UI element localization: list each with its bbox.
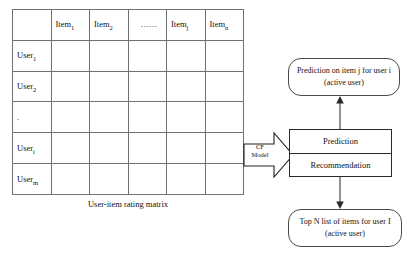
column-header-sub: 2: [110, 24, 113, 31]
row-header-ellipsis: .: [13, 102, 52, 133]
column-header-item-n: Itemn: [205, 10, 244, 41]
table-row-highlighted: Useri: [13, 133, 244, 164]
rating-cell-target: [167, 133, 206, 164]
rating-cell: [128, 71, 167, 102]
prediction-recommendation-box: Prediction Recommendation: [289, 129, 392, 177]
row-header-base: User: [17, 50, 33, 60]
row-header-user-m: Userm: [13, 164, 52, 195]
prediction-output-label: Prediction on item j for user i (active …: [295, 65, 393, 88]
rating-cell-item-j: [167, 102, 206, 133]
cf-model-arrow-shape: [243, 131, 295, 179]
rating-cell: [51, 164, 90, 195]
column-header-base: Item: [171, 19, 187, 29]
table-row: User1: [13, 40, 244, 71]
prediction-cell-label: Prediction: [323, 136, 358, 146]
rating-cell-item-j: [167, 164, 206, 195]
arrowhead-up-icon: [336, 96, 344, 104]
rating-cell: [51, 40, 90, 71]
row-header-sub: 1: [33, 55, 36, 62]
column-header-sub: j: [187, 24, 189, 31]
recommendation-cell-label: Recommendation: [311, 160, 371, 170]
recommendation-cell: Recommendation: [290, 154, 391, 177]
rating-cell: [128, 40, 167, 71]
rating-cell: [90, 40, 129, 71]
column-header-base: Item: [94, 19, 110, 29]
user-item-rating-matrix: Item1 Item2 ...... Itemj Itemn: [12, 9, 244, 195]
rating-cell-item-j: [167, 40, 206, 71]
column-header-ellipsis: ......: [128, 10, 167, 41]
row-header-base: User: [17, 174, 33, 184]
rating-cell: [128, 102, 167, 133]
recommender-system-diagram: Item1 Item2 ...... Itemj Itemn: [0, 0, 407, 267]
column-header-item-1: Item1: [51, 10, 90, 41]
rating-cell-item-j: [167, 71, 206, 102]
row-header-sub: i: [33, 147, 35, 154]
row-header-user-i: Useri: [13, 133, 52, 164]
rating-cell: [205, 40, 244, 71]
row-header-base: User: [17, 143, 33, 153]
column-header-base: Item: [210, 19, 226, 29]
rating-cell: [51, 102, 90, 133]
column-header-base: ......: [141, 19, 157, 29]
cf-model-block-arrow: CF Model: [243, 131, 295, 179]
rating-matrix-table: Item1 Item2 ...... Itemj Itemn: [12, 9, 244, 195]
column-header-base: Item: [56, 19, 72, 29]
row-header-user-1: User1: [13, 40, 52, 71]
row-header-base: User: [17, 81, 33, 91]
rating-cell: [90, 164, 129, 195]
rating-cell-highlighted: [128, 133, 167, 164]
rating-cell-highlighted: [90, 133, 129, 164]
column-header-sub: 1: [71, 24, 74, 31]
row-header-base: .: [17, 112, 19, 122]
rating-cell-highlighted: [205, 133, 244, 164]
table-row: Userm: [13, 164, 244, 195]
rating-cell: [205, 102, 244, 133]
rating-cell: [90, 71, 129, 102]
matrix-caption: User-item rating matrix: [12, 199, 244, 209]
matrix-corner-cell: [13, 10, 52, 41]
prediction-output-box: Prediction on item j for user i (active …: [288, 58, 400, 96]
prediction-cell: Prediction: [290, 130, 391, 154]
rating-cell: [128, 164, 167, 195]
table-row: .: [13, 102, 244, 133]
row-header-sub: 2: [33, 86, 36, 93]
rating-cell-highlighted: [51, 133, 90, 164]
table-header-row: Item1 Item2 ...... Itemj Itemn: [13, 10, 244, 41]
arrowhead-down-icon: [336, 202, 344, 210]
top-n-list-label: Top N list of items for user I (active u…: [295, 216, 395, 239]
column-header-item-j: Itemj: [167, 10, 206, 41]
rating-cell: [90, 102, 129, 133]
rating-cell: [51, 71, 90, 102]
table-row: User2: [13, 71, 244, 102]
rating-cell: [205, 71, 244, 102]
column-header-item-2: Item2: [90, 10, 129, 41]
column-header-sub: n: [225, 24, 228, 31]
top-n-list-box: Top N list of items for user I (active u…: [288, 209, 402, 247]
row-header-user-2: User2: [13, 71, 52, 102]
row-header-sub: m: [33, 178, 38, 185]
rating-cell: [205, 164, 244, 195]
